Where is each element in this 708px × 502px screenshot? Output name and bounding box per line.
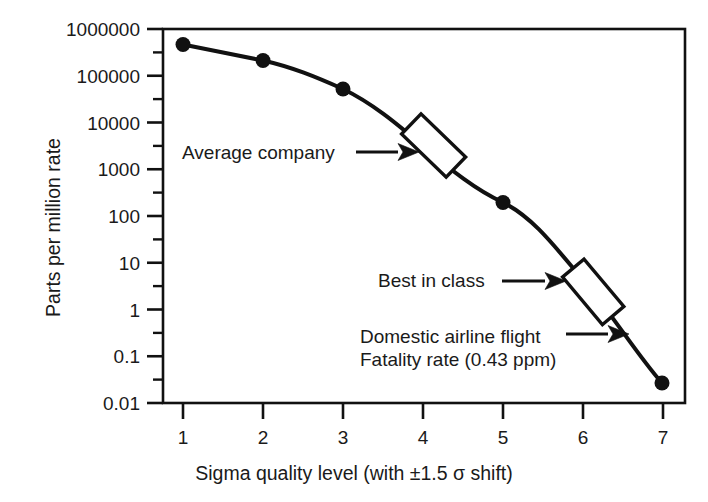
annotation-domestic-airline: Domestic airline flight Fatality rate (0… (360, 325, 556, 371)
annotation-best-in-class: Best in class (378, 269, 485, 292)
ytick-label-0.01: 0.01 (0, 394, 140, 413)
ytick-label-0.1: 0.1 (0, 347, 140, 366)
ytick-label-100000: 100000 (0, 66, 140, 85)
x-axis-title: Sigma quality level (with ±1.5 σ shift) (0, 462, 708, 485)
xtick-label-6: 6 (578, 428, 589, 447)
sigma-quality-chart: 1000000 100000 10000 1000 100 10 1 0.1 0… (0, 0, 708, 502)
ytick-label-1000: 1000 (0, 160, 140, 179)
annotation-average-company: Average company (182, 141, 335, 164)
y-axis-major-ticks (147, 29, 163, 403)
xtick-label-2: 2 (258, 428, 269, 447)
data-point-sigma-7 (655, 376, 670, 391)
ytick-label-10000: 10000 (0, 113, 140, 132)
x-axis-ticks (183, 403, 663, 419)
y-axis-title: Parts per million rate (42, 113, 65, 343)
xtick-label-5: 5 (498, 428, 509, 447)
annotation-airline-line2: Fatality rate (0.43 ppm) (360, 348, 556, 371)
xtick-label-7: 7 (658, 428, 669, 447)
data-point-sigma-2 (256, 53, 271, 68)
data-point-sigma-3 (336, 82, 351, 97)
ytick-label-100: 100 (0, 207, 140, 226)
xtick-label-4: 4 (418, 428, 429, 447)
ytick-label-10: 10 (0, 253, 140, 272)
data-point-sigma-5 (496, 195, 511, 210)
xtick-label-1: 1 (178, 428, 189, 447)
ytick-label-1000000: 1000000 (0, 20, 140, 39)
xtick-label-3: 3 (338, 428, 349, 447)
annotation-airline-line1: Domestic airline flight (360, 325, 556, 348)
data-point-sigma-1 (176, 37, 191, 52)
ytick-label-1: 1 (0, 300, 140, 319)
